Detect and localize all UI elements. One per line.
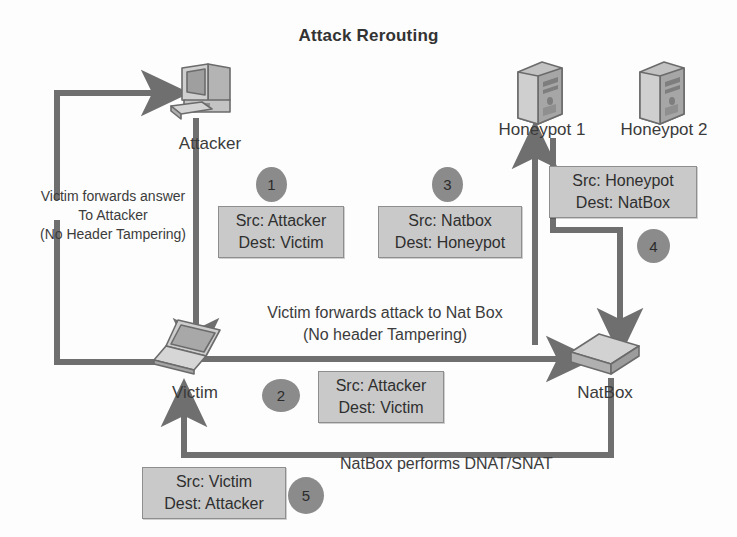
node-label-honeypot1: Honeypot 1 [482, 120, 602, 140]
note-middle-line1: Victim forwards attack to Nat Box [225, 302, 545, 324]
step3-src: Src: Natbox [387, 210, 513, 232]
node-label-honeypot2: Honeypot 2 [604, 120, 724, 140]
step5-src: Src: Victim [151, 471, 277, 493]
node-label-victim: Victim [135, 383, 255, 403]
step-badge-1: 1 [256, 167, 287, 202]
note-victim-forwards-attack: Victim forwards attack to Nat Box (No he… [225, 302, 545, 345]
note-middle-line2: (No header Tampering) [225, 324, 545, 346]
step3-dest: Dest: Honeypot [387, 232, 513, 254]
step1-src: Src: Attacker [227, 210, 335, 232]
step-infobox-4: Src: Honeypot Dest: NatBox [549, 166, 697, 218]
step-infobox-1: Src: Attacker Dest: Victim [218, 206, 344, 258]
node-label-natbox: NatBox [545, 383, 665, 403]
step1-dest: Dest: Victim [227, 232, 335, 254]
node-label-attacker: Attacker [150, 134, 270, 154]
note-victim-forwards-answer: Victim forwards answer To Attacker (No H… [18, 187, 208, 244]
laptop-icon [150, 316, 236, 380]
wire-victim-to-attacker-upper [57, 93, 160, 200]
diagram-title: Attack Rerouting [0, 26, 737, 46]
note-left-line2: To Attacker [18, 206, 208, 225]
note-natbox-performs-dnat-snat: NatBox performs DNAT/SNAT [340, 453, 640, 475]
step-infobox-3: Src: Natbox Dest: Honeypot [378, 206, 522, 258]
step2-dest: Dest: Victim [327, 397, 435, 419]
note-left-line1: Victim forwards answer [18, 187, 208, 206]
step4-dest: Dest: NatBox [558, 192, 688, 214]
step-infobox-5: Src: Victim Dest: Attacker [142, 467, 286, 519]
step4-src: Src: Honeypot [558, 170, 688, 192]
note-bottom-line1: NatBox performs DNAT/SNAT [340, 453, 640, 475]
diagram-canvas: Attack Rerouting Attacker [0, 0, 737, 537]
step-badge-5: 5 [288, 477, 324, 514]
step5-dest: Dest: Attacker [151, 493, 277, 515]
step2-src: Src: Attacker [327, 375, 435, 397]
step-badge-4: 4 [637, 229, 670, 263]
step-badge-2: 2 [262, 379, 300, 412]
router-box-icon [565, 330, 645, 382]
step-badge-3: 3 [432, 167, 463, 202]
note-left-line3: (No Header Tampering) [18, 225, 208, 244]
step-infobox-2: Src: Attacker Dest: Victim [318, 371, 444, 423]
desktop-computer-icon [168, 58, 246, 130]
